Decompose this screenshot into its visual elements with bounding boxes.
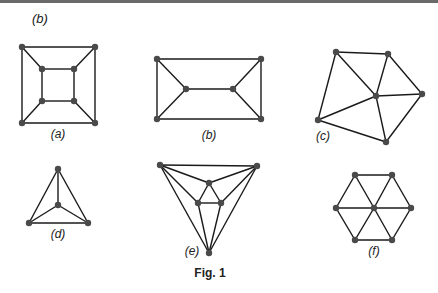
graph-vertex bbox=[71, 98, 77, 104]
graph-vertex bbox=[154, 116, 160, 122]
graph-edge bbox=[209, 183, 221, 203]
graph-a: (a) bbox=[19, 44, 98, 141]
graph-edge bbox=[318, 96, 376, 120]
graph-vertex bbox=[419, 91, 425, 97]
graph-b: (b) bbox=[154, 56, 264, 142]
graph-vertex bbox=[352, 237, 358, 243]
graph-edge bbox=[233, 59, 261, 89]
graph-vertex bbox=[254, 163, 260, 169]
graph-edge bbox=[74, 47, 95, 69]
graph-vertex bbox=[71, 66, 77, 72]
graph-label-b: (b) bbox=[202, 128, 217, 142]
graph-vertex bbox=[383, 139, 389, 145]
graph-edge bbox=[233, 89, 261, 119]
graph-vertex bbox=[39, 98, 45, 104]
graph-vertex bbox=[333, 205, 339, 211]
graph-edge bbox=[355, 208, 374, 240]
graph-vertex bbox=[218, 200, 224, 206]
graph-edge bbox=[392, 175, 411, 208]
graph-vertex bbox=[206, 250, 212, 256]
graph-edge bbox=[336, 208, 355, 240]
graph-edge bbox=[392, 208, 411, 240]
graph-edge bbox=[318, 52, 336, 120]
graph-edge bbox=[58, 169, 88, 223]
graph-vertex bbox=[85, 220, 91, 226]
graph-vertex bbox=[385, 51, 391, 57]
graph-vertex bbox=[183, 86, 189, 92]
graph-f: (f) bbox=[333, 172, 414, 258]
graph-vertex bbox=[26, 220, 32, 226]
graph-edge bbox=[198, 203, 209, 253]
graph-edge bbox=[160, 165, 209, 183]
figure-caption: Fig. 1 bbox=[194, 266, 226, 280]
graph-edge bbox=[388, 54, 422, 94]
graph-label-e: (e) bbox=[185, 244, 200, 258]
graph-edge bbox=[157, 59, 186, 89]
graph-vertex bbox=[39, 66, 45, 72]
graph-vertex bbox=[55, 202, 61, 208]
graph-vertex bbox=[258, 56, 264, 62]
graph-vertex bbox=[408, 205, 414, 211]
graph-edge bbox=[374, 175, 392, 208]
graph-vertex bbox=[92, 120, 98, 126]
graph-vertex bbox=[206, 180, 212, 186]
graph-edge bbox=[160, 165, 257, 166]
graph-edge bbox=[22, 47, 42, 69]
figure-canvas: (a)(b)(c)(d)(e)(f) Fig. 1 bbox=[0, 0, 438, 293]
graph-edge bbox=[376, 94, 422, 96]
graphs-layer: (a)(b)(c)(d)(e)(f) bbox=[19, 44, 425, 258]
graph-e: (e) bbox=[157, 162, 260, 258]
graph-vertex bbox=[157, 162, 163, 168]
graph-vertex bbox=[55, 166, 61, 172]
graph-edge bbox=[209, 166, 257, 253]
graph-vertex bbox=[315, 117, 321, 123]
graph-edge bbox=[74, 101, 95, 123]
graph-vertex bbox=[371, 205, 377, 211]
graph-edge bbox=[376, 54, 388, 96]
graph-edge bbox=[157, 89, 186, 119]
graph-edge bbox=[160, 165, 209, 253]
graph-edge bbox=[22, 101, 42, 123]
graph-c: (c) bbox=[315, 49, 425, 145]
graph-edge bbox=[29, 169, 58, 223]
graph-vertex bbox=[258, 116, 264, 122]
graph-edge bbox=[336, 52, 388, 54]
graph-edge bbox=[374, 208, 392, 240]
graph-vertex bbox=[389, 172, 395, 178]
graph-vertex bbox=[195, 200, 201, 206]
graph-edge bbox=[198, 183, 209, 203]
graph-label-a: (a) bbox=[51, 127, 66, 141]
graph-d: (d) bbox=[26, 166, 91, 241]
graph-vertex bbox=[230, 86, 236, 92]
graph-vertex bbox=[154, 56, 160, 62]
graph-edge bbox=[336, 52, 376, 96]
graph-edge bbox=[386, 94, 422, 142]
graph-label-f: (f) bbox=[368, 244, 379, 258]
graph-vertex bbox=[352, 172, 358, 178]
graph-vertex bbox=[19, 120, 25, 126]
graph-label-c: (c) bbox=[316, 129, 330, 143]
graph-vertex bbox=[389, 237, 395, 243]
graph-vertex bbox=[92, 44, 98, 50]
graph-edge bbox=[209, 203, 221, 253]
graph-edge bbox=[160, 165, 198, 203]
graph-edge bbox=[376, 96, 386, 142]
graph-vertex bbox=[373, 93, 379, 99]
graph-vertex bbox=[333, 49, 339, 55]
graph-label-d: (d) bbox=[51, 227, 66, 241]
graph-edge bbox=[336, 175, 355, 208]
graph-vertex bbox=[19, 44, 25, 50]
graph-edge bbox=[355, 175, 374, 208]
